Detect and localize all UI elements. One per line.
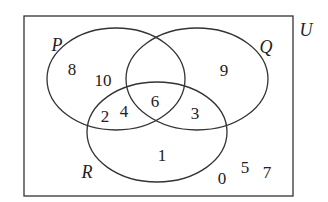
element-pr-1: 2	[101, 107, 110, 126]
element-pqr-1: 6	[151, 92, 160, 111]
element-outside-3: 7	[263, 163, 272, 182]
element-p-only-1: 8	[68, 60, 77, 79]
element-qr-1: 3	[191, 104, 200, 123]
label-set-q: Q	[260, 37, 273, 57]
element-pr-2: 4	[120, 102, 129, 121]
label-universal-set: U	[300, 20, 314, 40]
venn-diagram: U P Q R 8 10 9 6 2 4 3 1 0 5 7	[0, 0, 328, 202]
element-p-only-2: 10	[95, 71, 112, 90]
set-p-ellipse	[47, 28, 185, 130]
element-outside-2: 5	[241, 158, 250, 177]
label-set-r: R	[81, 162, 93, 182]
element-r-only-1: 1	[158, 146, 167, 165]
element-outside-1: 0	[218, 169, 227, 188]
element-q-only-1: 9	[220, 61, 229, 80]
label-set-p: P	[51, 35, 63, 55]
